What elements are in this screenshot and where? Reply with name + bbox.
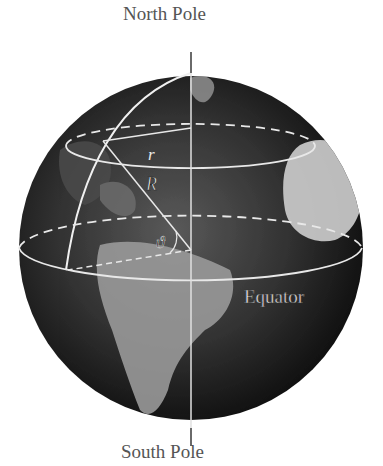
R-label: R [145,174,157,194]
r-label: r [148,145,155,164]
globe-diagram: r R ϑ Equator [0,0,383,466]
south-pole-label: South Pole [121,441,204,463]
equator-label: Equator [244,286,305,307]
